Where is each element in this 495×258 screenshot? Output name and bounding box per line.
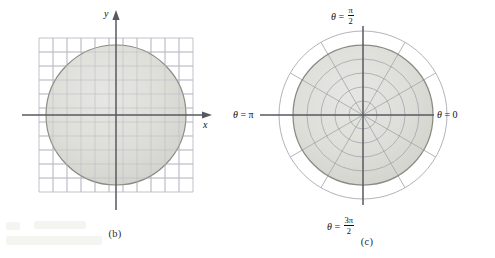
theta-symbol: θ xyxy=(327,221,332,232)
theta-symbol: θ xyxy=(437,109,442,120)
figure-root: x y (b) xyxy=(0,0,495,258)
theta-symbol: θ xyxy=(233,109,238,120)
theta-label-pi: θ=π xyxy=(233,110,254,120)
panel-caption-c: (c) xyxy=(337,236,397,247)
equals-symbol: = xyxy=(240,109,246,120)
y-axis-label: y xyxy=(104,8,108,19)
x-axis-arrowhead xyxy=(202,111,212,118)
panel-cartesian: x y (b) xyxy=(0,0,248,258)
y-axis-arrowhead xyxy=(112,10,119,20)
theta-label-pi-over-2: θ=π2 xyxy=(331,6,354,26)
panel-caption-b: (b) xyxy=(85,228,145,239)
fraction-3pi-over-2: 3π2 xyxy=(344,216,355,236)
theta-label-zero: θ=0 xyxy=(437,110,458,120)
pi-symbol: π xyxy=(249,109,254,120)
theta-label-3pi-over-2: θ=3π2 xyxy=(327,216,354,236)
polar-plot-svg xyxy=(248,0,495,258)
equals-symbol: = xyxy=(444,109,450,120)
equals-symbol: = xyxy=(334,221,340,232)
panel-polar: θ=π2 θ=3π2 θ=π θ=0 (c) xyxy=(248,0,495,258)
equals-symbol: = xyxy=(338,11,344,22)
zero-symbol: 0 xyxy=(453,109,458,120)
fraction-pi-over-2: π2 xyxy=(348,6,354,26)
theta-symbol: θ xyxy=(331,11,336,22)
cartesian-plot-svg xyxy=(0,0,248,258)
x-axis-label: x xyxy=(203,119,207,130)
